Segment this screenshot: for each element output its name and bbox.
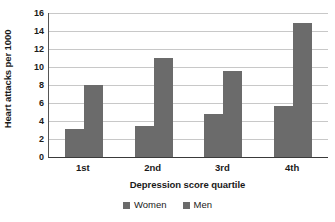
- bar-women-1st[interactable]: [65, 129, 84, 157]
- bar-men-4th[interactable]: [293, 23, 312, 157]
- bar-women-2nd[interactable]: [135, 126, 154, 158]
- bar-men-3rd[interactable]: [223, 71, 242, 157]
- x-tick-label: 4th: [257, 161, 327, 175]
- bar-women-4th[interactable]: [274, 106, 293, 157]
- x-axis-tick-labels: 1st2nd3rd4th: [48, 161, 327, 175]
- legend-item-women[interactable]: Women: [123, 200, 167, 210]
- x-tick-label: 2nd: [118, 161, 188, 175]
- y-tick-label: 16: [20, 9, 44, 18]
- y-axis-title: Heart attacks per 1000: [0, 0, 14, 158]
- legend-swatch-icon: [123, 202, 130, 209]
- x-tick-label: 1st: [48, 161, 118, 175]
- x-tick-label: 3rd: [188, 161, 258, 175]
- bar-group: [119, 13, 189, 157]
- y-tick-label: 12: [20, 45, 44, 54]
- y-tick-label: 14: [20, 27, 44, 36]
- bar-groups: [49, 13, 328, 157]
- y-tick-label: 10: [20, 63, 44, 72]
- bar-women-3rd[interactable]: [204, 114, 223, 157]
- y-tick-label: 6: [20, 99, 44, 108]
- legend-label: Women: [134, 200, 167, 210]
- bar-men-1st[interactable]: [84, 85, 103, 157]
- y-tick-label: 4: [20, 117, 44, 126]
- bar-group: [189, 13, 259, 157]
- legend-item-men[interactable]: Men: [183, 200, 212, 210]
- chart-legend: WomenMen: [0, 200, 335, 210]
- legend-label: Men: [194, 200, 212, 210]
- bar-group: [258, 13, 328, 157]
- bar-group: [49, 13, 119, 157]
- y-axis-tick-labels: 1614121086420: [22, 13, 46, 157]
- gridline: [49, 157, 328, 158]
- legend-swatch-icon: [183, 202, 190, 209]
- y-tick-label: 0: [20, 153, 44, 162]
- bar-men-2nd[interactable]: [154, 58, 173, 157]
- y-tick-label: 2: [20, 135, 44, 144]
- plot-area: [48, 13, 328, 158]
- bar-chart-figure: Heart attacks per 1000 1614121086420 1st…: [0, 0, 335, 222]
- y-tick-label: 8: [20, 81, 44, 90]
- x-axis-title: Depression score quartile: [48, 179, 327, 190]
